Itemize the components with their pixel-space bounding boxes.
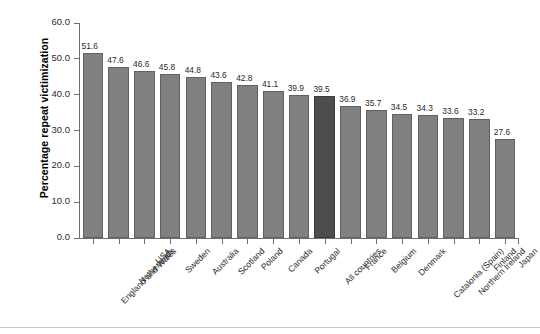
x-axis-category-label: Australia [210,246,241,277]
bar[interactable] [134,71,155,238]
bar-value-label: 41.1 [262,79,278,89]
bar[interactable] [108,67,129,238]
x-tick-mark [518,239,519,244]
x-tick-mark [325,239,326,244]
y-tick-mark [74,202,79,203]
x-tick-mark [505,239,506,244]
y-tick-label: 50.0 [0,52,70,63]
y-tick-label: 20.0 [0,159,70,170]
y-tick-label: 60.0 [0,16,70,27]
bar-value-label: 33.6 [442,106,458,116]
y-tick-mark [74,166,79,167]
bar-value-label: 42.8 [236,73,252,83]
bar-value-label: 46.6 [133,59,149,69]
x-tick-mark [93,239,94,244]
bar[interactable] [469,119,490,238]
bar-value-label: 36.9 [339,94,355,104]
x-tick-mark [119,239,120,244]
x-tick-mark [479,239,480,244]
y-tick-label: 30.0 [0,124,70,135]
x-axis-category-label: Canada [286,246,314,274]
bottom-divider [0,327,540,328]
bar-value-label: 35.7 [365,98,381,108]
x-tick-mark [454,239,455,244]
bar[interactable] [211,82,232,238]
x-tick-mark [351,239,352,244]
bar[interactable] [443,118,464,238]
bar-value-label: 39.9 [288,83,304,93]
bar-value-label: 43.6 [210,70,226,80]
x-tick-mark [170,239,171,244]
x-tick-mark [144,239,145,244]
bar[interactable] [289,95,310,238]
bar[interactable] [263,91,284,238]
bar-value-label: 39.5 [313,84,329,94]
x-axis-category-label: Belgium [389,246,418,275]
bar[interactable] [418,115,439,238]
x-tick-mark [402,239,403,244]
bar-value-label: 51.6 [82,41,98,51]
plot-area: 51.647.646.645.844.843.642.841.139.939.5… [80,23,518,238]
bar-value-label: 33.2 [468,107,484,117]
x-tick-mark [428,239,429,244]
x-tick-mark [273,239,274,244]
bar[interactable] [366,110,387,238]
x-tick-mark [376,239,377,244]
x-tick-mark [196,239,197,244]
y-tick-mark [74,94,79,95]
x-tick-mark [222,239,223,244]
bar[interactable] [392,114,413,238]
y-tick-label: 0.0 [0,231,70,242]
bar[interactable] [83,53,104,238]
bar[interactable] [495,139,516,238]
bar-value-label: 34.3 [417,103,433,113]
y-tick-label: 40.0 [0,88,70,99]
bar[interactable] [237,85,258,238]
bar[interactable] [340,106,361,238]
bar-value-label: 27.6 [494,127,510,137]
bar[interactable] [160,74,181,238]
bar[interactable] [314,96,335,238]
x-tick-mark [299,239,300,244]
bar-value-label: 47.6 [107,55,123,65]
y-tick-mark [74,58,79,59]
x-axis-category-label: Denmark [416,246,448,278]
x-axis-category-label: Portugal [312,246,342,276]
y-tick-mark [74,23,79,24]
y-tick-mark [74,130,79,131]
x-axis-category-label: Sweden [183,246,212,275]
x-tick-mark [247,239,248,244]
bar-value-label: 34.5 [391,102,407,112]
y-tick-label: 10.0 [0,195,70,206]
y-tick-mark [74,238,79,239]
bar-chart-figure: Percentage repeat victimization 0.010.02… [0,0,540,334]
bar-value-label: 45.8 [159,62,175,72]
bar[interactable] [186,77,207,238]
bar-value-label: 44.8 [185,65,201,75]
